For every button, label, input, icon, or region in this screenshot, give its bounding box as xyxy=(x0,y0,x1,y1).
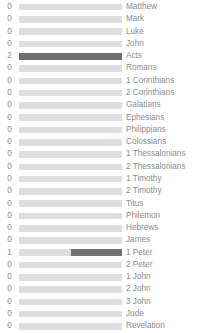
row-label: Matthew xyxy=(122,1,197,13)
bar-track xyxy=(19,164,122,171)
row-label: 1 John xyxy=(122,271,197,283)
row-value: 0 xyxy=(0,283,19,295)
bar-track xyxy=(19,176,122,183)
bar-fill xyxy=(19,53,122,60)
row-label: Mark xyxy=(122,13,197,25)
row-value: 0 xyxy=(0,136,19,148)
table-row[interactable]: 01 Thessalonians xyxy=(0,148,197,160)
bar-track xyxy=(19,225,122,232)
row-label: 1 Peter xyxy=(122,247,197,259)
table-row[interactable]: 0Philippians xyxy=(0,124,197,136)
bar-track xyxy=(19,311,122,318)
row-value: 1 xyxy=(0,247,19,259)
row-value: 0 xyxy=(0,26,19,38)
row-label: Philemon xyxy=(122,210,197,222)
table-row[interactable]: 02 Thessalonians xyxy=(0,161,197,173)
table-row[interactable]: 0Jude xyxy=(0,308,197,320)
table-row[interactable]: 0James xyxy=(0,234,197,246)
table-row[interactable]: 0Matthew xyxy=(0,1,197,13)
row-label: 2 Peter xyxy=(122,259,197,271)
row-label: John xyxy=(122,38,197,50)
row-label: Galatians xyxy=(122,99,197,111)
row-label: 1 Thessalonians xyxy=(122,148,197,160)
row-label: 1 Corinthians xyxy=(122,75,197,87)
row-label: Revelation xyxy=(122,320,197,332)
table-row[interactable]: 01 Timothy xyxy=(0,173,197,185)
row-value: 0 xyxy=(0,148,19,160)
bar-track xyxy=(19,53,122,60)
row-value: 0 xyxy=(0,308,19,320)
row-label: Acts xyxy=(122,50,197,62)
table-row[interactable]: 2Acts xyxy=(0,50,197,62)
bar-track xyxy=(19,78,122,85)
row-label: Titus xyxy=(122,198,197,210)
bar-list-chart: 0Matthew0Mark0Luke0John2Acts0Romans01 Co… xyxy=(0,0,197,333)
bar-track xyxy=(19,200,122,207)
row-value: 0 xyxy=(0,271,19,283)
row-label: Ephesians xyxy=(122,112,197,124)
row-value: 0 xyxy=(0,75,19,87)
bar-track xyxy=(19,274,122,281)
bar-track xyxy=(19,188,122,195)
table-row[interactable]: 02 Corinthians xyxy=(0,87,197,99)
row-value: 0 xyxy=(0,296,19,308)
table-row[interactable]: 01 Corinthians xyxy=(0,75,197,87)
row-value: 0 xyxy=(0,185,19,197)
bar-track xyxy=(19,4,122,11)
row-label: Hebrews xyxy=(122,222,197,234)
row-value: 0 xyxy=(0,161,19,173)
bar-track xyxy=(19,127,122,134)
table-row[interactable]: 0Ephesians xyxy=(0,112,197,124)
table-row[interactable]: 0Galatians xyxy=(0,99,197,111)
bar-track xyxy=(19,151,122,158)
row-value: 0 xyxy=(0,99,19,111)
bar-track xyxy=(19,16,122,23)
row-value: 0 xyxy=(0,234,19,246)
row-label: 2 John xyxy=(122,283,197,295)
bar-track xyxy=(19,139,122,146)
row-value: 0 xyxy=(0,259,19,271)
table-row[interactable]: 02 Timothy xyxy=(0,185,197,197)
table-row[interactable]: 0John xyxy=(0,38,197,50)
row-value: 2 xyxy=(0,50,19,62)
row-value: 0 xyxy=(0,38,19,50)
table-row[interactable]: 0Philemon xyxy=(0,210,197,222)
bar-track xyxy=(19,102,122,109)
row-value: 0 xyxy=(0,198,19,210)
table-row[interactable]: 0Mark xyxy=(0,13,197,25)
row-label: Jude xyxy=(122,308,197,320)
bar-track xyxy=(19,299,122,306)
row-label: 2 Thessalonians xyxy=(122,161,197,173)
table-row[interactable]: 0Luke xyxy=(0,26,197,38)
row-label: James xyxy=(122,234,197,246)
table-row[interactable]: 0Revelation xyxy=(0,320,197,332)
row-label: Romans xyxy=(122,62,197,74)
row-value: 0 xyxy=(0,173,19,185)
row-label: Luke xyxy=(122,26,197,38)
table-row[interactable]: 0Hebrews xyxy=(0,222,197,234)
row-value: 0 xyxy=(0,112,19,124)
bar-track xyxy=(19,213,122,220)
row-label: 1 Timothy xyxy=(122,173,197,185)
row-value: 0 xyxy=(0,62,19,74)
row-label: Colossians xyxy=(122,136,197,148)
bar-track xyxy=(19,249,122,256)
row-label: 2 Corinthians xyxy=(122,87,197,99)
table-row[interactable]: 01 John xyxy=(0,271,197,283)
table-row[interactable]: 03 John xyxy=(0,296,197,308)
bar-fill xyxy=(71,249,123,256)
table-row[interactable]: 0Titus xyxy=(0,198,197,210)
bar-track xyxy=(19,286,122,293)
table-row[interactable]: 02 John xyxy=(0,283,197,295)
bar-track xyxy=(19,323,122,330)
row-value: 0 xyxy=(0,13,19,25)
bar-track xyxy=(19,41,122,48)
table-row[interactable]: 11 Peter xyxy=(0,247,197,259)
row-value: 0 xyxy=(0,320,19,332)
row-value: 0 xyxy=(0,222,19,234)
table-row[interactable]: 02 Peter xyxy=(0,259,197,271)
bar-track xyxy=(19,114,122,121)
table-row[interactable]: 0Romans xyxy=(0,62,197,74)
row-label: 2 Timothy xyxy=(122,185,197,197)
table-row[interactable]: 0Colossians xyxy=(0,136,197,148)
